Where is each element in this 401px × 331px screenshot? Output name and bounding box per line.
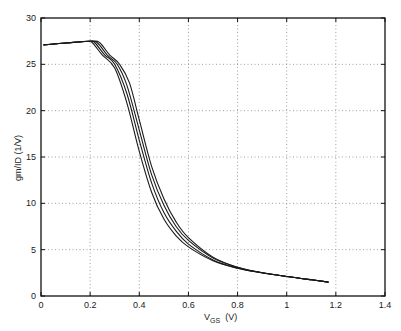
y-tick-label: 30 — [26, 13, 36, 23]
y-tick-label: 5 — [31, 245, 36, 255]
gm-id-vs-vgs-chart: 00.20.40.60.811.21.4 051015202530 VGS(V)… — [0, 0, 401, 331]
data-series-line — [44, 41, 329, 282]
x-axis-label-unit: (V) — [225, 312, 237, 322]
data-curves — [44, 41, 329, 282]
y-tick-label: 25 — [26, 59, 36, 69]
x-axis-ticks: 00.20.40.60.811.21.4 — [38, 18, 391, 310]
x-tick-label: 1.4 — [379, 300, 392, 310]
grid-lines — [41, 18, 385, 296]
y-tick-label: 20 — [26, 106, 36, 116]
x-tick-label: 0 — [38, 300, 43, 310]
x-tick-label: 0.8 — [231, 300, 244, 310]
x-tick-label: 0.6 — [182, 300, 195, 310]
y-tick-label: 15 — [26, 152, 36, 162]
y-tick-label: 10 — [26, 198, 36, 208]
y-tick-label: 0 — [31, 291, 36, 301]
x-tick-label: 0.2 — [84, 300, 97, 310]
data-series-line — [44, 41, 329, 282]
x-tick-label: 0.4 — [133, 300, 146, 310]
x-tick-label: 1 — [284, 300, 289, 310]
data-series-line — [44, 41, 329, 282]
x-tick-label: 1.2 — [330, 300, 343, 310]
x-axis-label-sub: GS — [210, 317, 220, 324]
data-series-line — [44, 41, 329, 282]
y-axis-label: gm/ID (1/V) — [13, 135, 23, 181]
x-axis-label: VGS(V) — [204, 312, 237, 324]
